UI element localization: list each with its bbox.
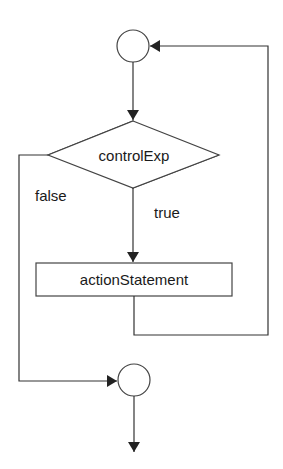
false-label: false	[35, 187, 67, 204]
action-label: actionStatement	[80, 271, 189, 288]
entry-connector	[117, 30, 149, 62]
flowchart: controlExp true actionStatement false	[0, 0, 283, 469]
condition-label: controlExp	[99, 147, 170, 164]
true-label: true	[154, 204, 180, 221]
exit-connector	[118, 364, 150, 396]
